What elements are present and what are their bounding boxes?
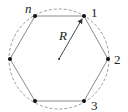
vertex-5 <box>8 57 12 61</box>
label-vertex-1: 1 <box>91 5 98 20</box>
vertex-3 <box>82 99 86 103</box>
vertex-4 <box>33 99 37 103</box>
label-vertex-2: 2 <box>114 52 121 67</box>
label-vertex-n: n <box>25 1 32 16</box>
vertex-n <box>33 14 37 18</box>
label-vertex-3: 3 <box>91 98 98 112</box>
vertex-2 <box>106 57 110 61</box>
polygon-diagram: 1 2 3 n R <box>0 0 128 112</box>
label-radius: R <box>58 28 67 43</box>
center-point <box>58 58 60 60</box>
vertex-1 <box>82 14 86 18</box>
